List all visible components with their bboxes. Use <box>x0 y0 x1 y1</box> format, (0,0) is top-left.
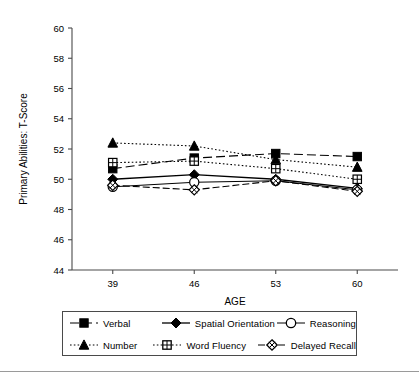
figure-root: 44464850525456586039465360AGEPrimary Abi… <box>0 0 419 381</box>
legend-label: Word Fluency <box>186 340 246 351</box>
legend-item-word-fluency[interactable]: Word Fluency <box>152 338 256 352</box>
open-circle-glyph <box>276 316 306 330</box>
x-axis-title: AGE <box>224 296 245 307</box>
filled-diamond-glyph <box>161 316 191 330</box>
y-tick-label: 54 <box>53 113 64 124</box>
legend-label: Number <box>103 340 137 351</box>
chart-legend: Verbal Spatial Orientation Reasoning Num… <box>62 311 357 356</box>
marker-filled-triangle <box>79 340 89 349</box>
page-divider <box>0 371 419 372</box>
filled-triangle-icon <box>69 338 99 352</box>
y-tick-label: 60 <box>53 23 64 34</box>
filled-square-icon <box>69 316 99 330</box>
legend-label: Delayed Recall <box>291 340 356 351</box>
open-circle-icon <box>276 316 306 330</box>
crossed-diamond-icon <box>257 338 287 352</box>
y-tick-label: 46 <box>53 234 64 245</box>
legend-item-verbal[interactable]: Verbal <box>69 316 161 330</box>
legend-item-reasoning[interactable]: Reasoning <box>276 316 356 330</box>
y-tick-label: 50 <box>53 174 64 185</box>
filled-triangle-glyph <box>69 338 99 352</box>
marker-filled-square <box>80 319 88 327</box>
x-tick-label: 53 <box>270 278 281 289</box>
marker-filled-triangle <box>189 141 199 150</box>
x-tick-label: 39 <box>107 278 118 289</box>
legend-label: Reasoning <box>310 318 356 329</box>
crossed-diamond-glyph <box>257 338 287 352</box>
marker-filled-triangle <box>352 162 362 171</box>
filled-square-glyph <box>69 316 99 330</box>
marker-filled-diamond <box>171 318 181 328</box>
y-axis-title: Primary Abilities: T-Score <box>18 93 29 205</box>
y-tick-label: 52 <box>53 144 64 155</box>
legend-item-spatial-orientation[interactable]: Spatial Orientation <box>161 316 276 330</box>
legend-item-delayed-recall[interactable]: Delayed Recall <box>257 338 356 352</box>
marker-open-circle <box>286 318 295 327</box>
legend-item-number[interactable]: Number <box>69 338 152 352</box>
y-tick-label: 48 <box>53 204 64 215</box>
series-line-verbal <box>113 154 358 169</box>
legend-label: Verbal <box>103 318 131 329</box>
x-tick-label: 60 <box>352 278 363 289</box>
y-tick-label: 56 <box>53 83 64 94</box>
legend-row-1: Verbal Spatial Orientation Reasoning <box>63 312 356 334</box>
legend-label: Spatial Orientation <box>195 318 275 329</box>
grid-square-icon <box>152 338 182 352</box>
legend-row-2: Number Word Fluency Delayed Recall <box>63 334 356 356</box>
marker-filled-triangle <box>108 138 118 147</box>
x-tick-label: 46 <box>189 278 200 289</box>
y-tick-label: 58 <box>53 53 64 64</box>
grid-square-glyph <box>152 338 182 352</box>
filled-diamond-icon <box>161 316 191 330</box>
y-tick-label: 44 <box>53 265 64 276</box>
marker-filled-square <box>353 152 361 160</box>
